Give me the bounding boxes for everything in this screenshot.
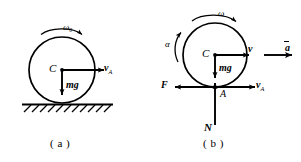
alpha-label-b: α xyxy=(165,40,170,49)
omega-arc-arrow-b xyxy=(192,15,236,21)
velocity-a-label-a: vA xyxy=(104,63,112,75)
ground-hatching-a xyxy=(24,105,111,112)
velocity-c-label-b: v xyxy=(248,44,252,54)
velocity-a-label-b: vA xyxy=(256,80,264,92)
contact-point-label-b: A xyxy=(220,89,226,99)
physics-figure: ω₀ C mg vA ( a ) ω α C mg v a F vA A N (… xyxy=(0,0,301,162)
acceleration-label-b: a xyxy=(285,43,290,53)
panel-b-graphics xyxy=(175,15,292,125)
center-label-b: C xyxy=(202,48,209,59)
alpha-arc-arrow-b xyxy=(175,33,181,63)
normal-force-label-b: N xyxy=(204,122,212,133)
caption-b: ( b ) xyxy=(203,137,224,149)
weight-label-a: mg xyxy=(66,80,79,90)
omega0-label: ω₀ xyxy=(63,23,72,32)
center-label-a: C xyxy=(49,63,56,74)
caption-a: ( a ) xyxy=(50,137,70,149)
omega0-arc-arrow xyxy=(41,29,82,35)
panel-a-graphics xyxy=(22,29,113,112)
friction-label-b: F xyxy=(161,80,168,90)
omega-label-b: ω xyxy=(218,9,224,18)
weight-label-b: mg xyxy=(219,63,232,73)
